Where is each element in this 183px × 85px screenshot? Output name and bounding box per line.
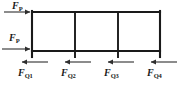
load-label-top: FP <box>12 1 22 11</box>
load-label-mid-symbol: F <box>9 32 16 43</box>
shear-label-1: FQ1 <box>18 68 33 78</box>
frame-diagram-figure: FP FP FQ1 FQ2 FQ3 FQ4 <box>0 0 183 85</box>
load-label-mid: FP <box>9 33 19 43</box>
load-label-top-subscript: P <box>19 5 23 12</box>
shear-label-4: FQ4 <box>147 68 162 78</box>
shear-label-1-symbol: F <box>18 67 25 78</box>
frame-structure <box>32 11 160 57</box>
shear-label-3-symbol: F <box>104 67 111 78</box>
shear-label-4-subscript: Q4 <box>154 72 162 79</box>
shear-label-4-symbol: F <box>147 67 154 78</box>
shear-label-3: FQ3 <box>104 68 119 78</box>
shear-label-2-symbol: F <box>61 67 68 78</box>
load-label-top-symbol: F <box>12 0 19 11</box>
load-label-mid-subscript: P <box>16 37 20 44</box>
shear-label-3-subscript: Q3 <box>111 72 119 79</box>
shear-label-2-subscript: Q2 <box>68 72 76 79</box>
shear-label-1-subscript: Q1 <box>25 72 33 79</box>
shear-label-2: FQ2 <box>61 68 76 78</box>
